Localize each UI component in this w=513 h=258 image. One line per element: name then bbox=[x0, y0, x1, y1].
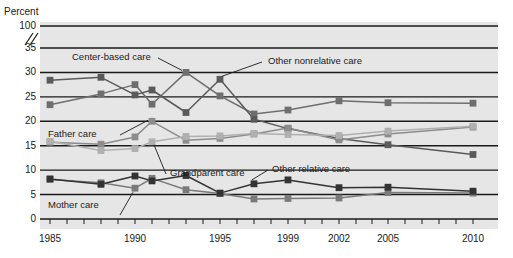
data-point-marker bbox=[132, 173, 139, 180]
y-tick-label: 25 bbox=[6, 92, 36, 102]
data-point-marker bbox=[132, 134, 139, 141]
data-point-marker bbox=[470, 100, 477, 107]
data-point-marker bbox=[470, 123, 477, 130]
data-point-marker bbox=[183, 109, 190, 116]
x-tick-label: 1995 bbox=[209, 233, 231, 244]
y-axis-title: Percent bbox=[4, 6, 38, 17]
data-point-marker bbox=[251, 196, 258, 203]
annotation-grandparent-care: Grandparent care bbox=[170, 168, 244, 178]
y-tick-label: 30 bbox=[6, 67, 36, 77]
y-tick-label: 20 bbox=[6, 116, 36, 126]
data-point-marker bbox=[149, 118, 156, 125]
annotation-mother-care: Mother care bbox=[48, 200, 99, 210]
x-tick-label: 1999 bbox=[277, 233, 299, 244]
data-point-marker bbox=[149, 178, 156, 185]
data-point-marker bbox=[149, 101, 156, 108]
data-point-marker bbox=[285, 177, 292, 184]
data-point-marker bbox=[183, 133, 190, 140]
data-point-marker bbox=[132, 92, 139, 99]
data-point-marker bbox=[217, 190, 224, 197]
annotation-leader-line bbox=[120, 192, 133, 215]
data-point-marker bbox=[385, 184, 392, 191]
data-point-marker bbox=[149, 138, 156, 145]
data-point-marker bbox=[336, 184, 343, 191]
annotation-other-nonrelative-care: Other nonrelative care bbox=[268, 56, 362, 66]
annotation-leader-line bbox=[120, 120, 148, 135]
data-point-marker bbox=[217, 76, 224, 83]
data-point-marker bbox=[285, 125, 292, 132]
data-point-marker bbox=[251, 130, 258, 137]
data-point-marker bbox=[183, 186, 190, 193]
data-point-marker bbox=[98, 74, 105, 81]
y-axis-tick-labels: 05101520253035100 bbox=[4, 22, 36, 229]
data-point-marker bbox=[98, 181, 105, 188]
data-point-marker bbox=[385, 99, 392, 106]
data-point-marker bbox=[149, 87, 156, 94]
series-line bbox=[50, 72, 473, 114]
x-tick-label: 2005 bbox=[377, 233, 399, 244]
data-point-marker bbox=[98, 141, 105, 148]
annotation-other-relative-care: Other relative care bbox=[272, 164, 350, 174]
data-point-marker bbox=[470, 188, 477, 195]
chart-figure: Percent 05101520253035100 19851990199519… bbox=[0, 0, 513, 258]
data-point-marker bbox=[336, 97, 343, 104]
annotation-leader-line bbox=[158, 58, 182, 70]
data-point-marker bbox=[217, 133, 224, 140]
data-point-marker bbox=[385, 141, 392, 148]
x-axis-tick-labels: 1985199019951999200220052010 bbox=[40, 233, 498, 249]
data-point-marker bbox=[336, 132, 343, 139]
data-point-marker bbox=[183, 69, 190, 76]
data-point-marker bbox=[132, 185, 139, 192]
x-tick-label: 1990 bbox=[124, 233, 146, 244]
data-point-marker bbox=[285, 195, 292, 202]
data-point-marker bbox=[285, 131, 292, 138]
data-point-marker bbox=[251, 180, 258, 187]
series-line bbox=[50, 121, 473, 144]
x-tick-label: 2010 bbox=[462, 233, 484, 244]
annotation-leader-line bbox=[222, 62, 262, 76]
data-point-marker bbox=[98, 147, 105, 154]
y-tick-label: 5 bbox=[6, 190, 36, 200]
annotation-leader-line bbox=[252, 170, 268, 180]
data-point-marker bbox=[251, 116, 258, 123]
data-point-marker bbox=[470, 151, 477, 158]
data-point-marker bbox=[217, 93, 224, 100]
data-point-marker bbox=[132, 81, 139, 88]
data-point-marker bbox=[98, 91, 105, 98]
y-tick-label: 15 bbox=[6, 141, 36, 151]
x-tick-label: 2002 bbox=[328, 233, 350, 244]
data-point-marker bbox=[132, 145, 139, 152]
y-axis-break-icon bbox=[22, 30, 42, 48]
data-point-marker bbox=[47, 77, 54, 84]
data-point-marker bbox=[47, 101, 54, 108]
data-point-marker bbox=[385, 128, 392, 135]
annotation-father-care: Father care bbox=[48, 129, 97, 139]
y-tick-label: 10 bbox=[6, 165, 36, 175]
data-point-marker bbox=[336, 195, 343, 202]
series-line bbox=[50, 77, 473, 154]
annotation-center-based-care: Center-based care bbox=[72, 52, 151, 62]
x-tick-label: 1985 bbox=[39, 233, 61, 244]
y-tick-label: 0 bbox=[6, 214, 36, 224]
data-point-marker bbox=[285, 107, 292, 114]
data-point-marker bbox=[47, 176, 54, 183]
